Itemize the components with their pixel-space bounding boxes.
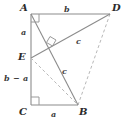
side-label-a-bottom: a	[51, 110, 56, 118]
vertex-label-B: B	[79, 107, 87, 117]
side-label-a-left: a	[21, 28, 26, 36]
right-angle-mark-C	[31, 97, 39, 105]
hypotenuse-AB	[31, 14, 78, 105]
geometry-diagram: A D E C B b a b − a a c c	[0, 0, 123, 124]
side-label-b-minus-a: b − a	[4, 74, 29, 82]
diagonal-EB	[31, 58, 78, 105]
hypotenuse-label-c-upper: c	[76, 37, 81, 45]
right-edge-DB	[78, 14, 110, 105]
side-label-b-top: b	[64, 5, 70, 13]
vertex-label-A: A	[20, 3, 28, 13]
vertex-label-C: C	[19, 107, 27, 117]
vertex-label-D: D	[112, 3, 121, 13]
vertex-label-E: E	[18, 52, 26, 62]
hypotenuse-label-c-lower: c	[62, 67, 67, 75]
